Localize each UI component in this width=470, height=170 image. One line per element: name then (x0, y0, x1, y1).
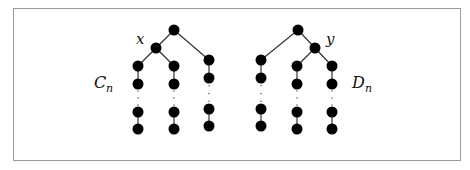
tree-node (310, 43, 321, 54)
tree-node (133, 124, 144, 135)
tree-node (327, 61, 338, 72)
tree-node (133, 61, 144, 72)
ellipsis-dot (296, 97, 298, 99)
tree-diagram: x y C n D n (0, 0, 470, 170)
tree-node (204, 55, 215, 66)
ellipsis-dot (137, 104, 139, 106)
label-c-n: C n (94, 73, 113, 95)
ellipsis-dot (331, 90, 333, 92)
label-d-main: D (351, 73, 365, 92)
tree-node (169, 79, 180, 90)
tree-edge (261, 30, 298, 60)
ellipsis-dot (173, 104, 175, 106)
ellipsis-dot (296, 90, 298, 92)
tree-node (204, 104, 215, 115)
ellipsis-dot (331, 97, 333, 99)
tree-node (204, 73, 215, 84)
tree-node (292, 79, 303, 90)
ellipsis-dot (260, 100, 262, 102)
tree-node (292, 61, 303, 72)
ellipsis-dot (208, 93, 210, 95)
tree-node (169, 25, 180, 36)
edges (138, 30, 332, 129)
ellipsis-dots (137, 85, 333, 106)
tree-node (133, 79, 144, 90)
ellipsis-dot (173, 90, 175, 92)
ellipsis-dot (260, 93, 262, 95)
tree-node (256, 121, 267, 132)
ellipsis-dot (260, 85, 262, 87)
tree-node (169, 107, 180, 118)
label-d-sub: n (365, 82, 372, 95)
ellipsis-dot (137, 90, 139, 92)
label-c-sub: n (106, 82, 113, 95)
ellipsis-dot (208, 85, 210, 87)
tree-node (169, 124, 180, 135)
label-d-n: D n (351, 73, 372, 95)
tree-node (151, 43, 162, 54)
ellipsis-dot (137, 97, 139, 99)
label-x: x (136, 30, 145, 48)
tree-node (204, 121, 215, 132)
tree-node (327, 79, 338, 90)
ellipsis-dot (331, 104, 333, 106)
tree-node (256, 104, 267, 115)
tree-node (293, 25, 304, 36)
ellipsis-dot (296, 104, 298, 106)
tree-node (327, 107, 338, 118)
tree-node (256, 55, 267, 66)
ellipsis-dot (173, 97, 175, 99)
tree-node (292, 124, 303, 135)
tree-node (256, 73, 267, 84)
label-y: y (325, 30, 335, 48)
tree-node (169, 61, 180, 72)
tree-edge (174, 30, 209, 60)
label-c-main: C (94, 73, 106, 92)
tree-node (327, 124, 338, 135)
tree-node (292, 107, 303, 118)
tree-node (133, 107, 144, 118)
ellipsis-dot (208, 100, 210, 102)
